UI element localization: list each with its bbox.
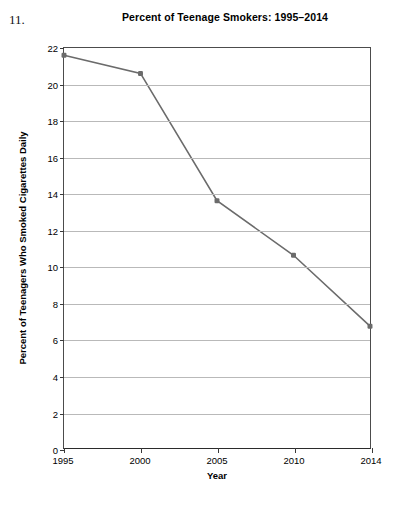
gridline [64,377,370,378]
x-axis-tick [64,448,65,453]
y-axis-tick-label: 14 [47,189,58,200]
y-axis-tick [60,194,64,195]
x-axis-tick-label: 2000 [129,455,150,466]
gridline [64,304,370,305]
y-axis-tick-label: 0 [53,445,58,456]
data-point-marker [138,71,143,76]
gridline [64,85,370,86]
x-axis-tick-label: 2010 [283,455,304,466]
x-axis-tick-label: 2005 [206,455,227,466]
y-axis-title: Percent of Teenagers Who Smoked Cigarett… [17,131,28,364]
gridline [64,194,370,195]
y-axis-tick-label: 22 [47,43,58,54]
figure-container: 11. Percent of Teenage Smokers: 1995–201… [0,0,404,520]
y-axis-tick [60,304,64,305]
y-axis-tick-label: 18 [47,116,58,127]
data-point-marker [215,198,220,203]
y-axis-tick-label: 12 [47,225,58,236]
y-axis-tick [60,414,64,415]
line-series-path [64,55,370,326]
y-axis-tick-label: 8 [53,298,58,309]
gridline [64,340,370,341]
data-point-marker [291,253,296,258]
y-axis-tick-label: 4 [53,371,58,382]
data-point-marker [368,324,373,329]
x-axis-tick [295,448,296,453]
x-axis-tick [218,448,219,453]
y-axis-tick [60,340,64,341]
gridline [64,231,370,232]
y-axis-tick [60,377,64,378]
x-axis-tick-label: 2014 [360,455,381,466]
y-axis-tick-label: 20 [47,79,58,90]
plot-area: 0246810121416182022 [63,47,371,449]
gridline [64,158,370,159]
x-axis-tick [141,448,142,453]
data-point-markers [62,53,373,329]
y-axis-tick [60,121,64,122]
line-series-svg [64,48,370,448]
y-axis-tick [60,85,64,86]
gridline [64,267,370,268]
x-axis-tick [372,448,373,453]
gridline [64,121,370,122]
data-point-marker [62,53,67,58]
chart-title: Percent of Teenage Smokers: 1995–2014 [60,11,390,23]
gridline [64,414,370,415]
x-axis-title: Year [63,470,371,481]
y-axis-tick [60,267,64,268]
item-number: 11. [9,12,25,27]
y-axis-tick-label: 6 [53,335,58,346]
x-axis-tick-label: 1995 [52,455,73,466]
y-axis-tick [60,48,64,49]
y-axis-tick-label: 10 [47,262,58,273]
y-axis-tick [60,231,64,232]
y-axis-tick-label: 2 [53,408,58,419]
y-axis-tick-label: 16 [47,152,58,163]
y-axis-tick [60,158,64,159]
